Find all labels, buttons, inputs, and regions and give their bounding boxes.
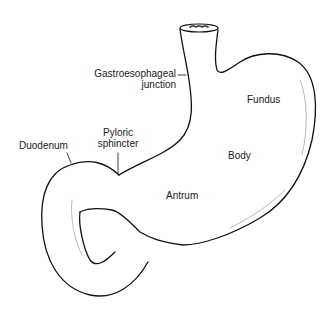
label-duodenum: Duodenum <box>19 140 68 151</box>
stomach-illustration <box>0 0 332 311</box>
label-ge-junction: Gastroesophageal junction <box>88 68 176 90</box>
duodenum-leader <box>67 153 71 163</box>
label-ge-junction-line2: junction <box>88 79 176 90</box>
lesser-curvature <box>119 29 191 175</box>
label-fundus: Fundus <box>247 94 280 105</box>
duodenum-inner <box>80 212 115 264</box>
label-body: Body <box>228 150 251 161</box>
label-pyloric-line1: Pyloric <box>94 127 142 138</box>
duodenum-outer <box>42 162 148 296</box>
label-antrum: Antrum <box>166 190 198 201</box>
label-pyloric-line2: sphincter <box>94 138 142 149</box>
label-ge-junction-line1: Gastroesophageal <box>88 68 176 79</box>
label-pyloric-sphincter: Pyloric sphincter <box>94 127 142 149</box>
